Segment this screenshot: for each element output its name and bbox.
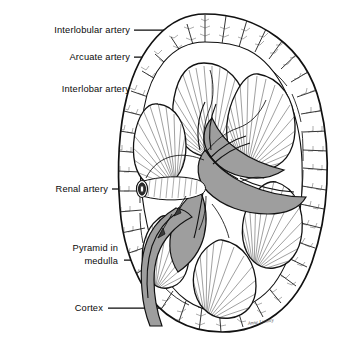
label-interlobular-artery: Interlobular artery [54,25,130,35]
label-renal-artery: Renal artery [56,184,109,194]
renal-artery-vessel [137,177,206,200]
label-pyramid-in-medulla-line2: medulla [84,256,118,266]
kidney-diagram-svg: Interlobular artery Arcuate artery Inter… [0,0,350,344]
label-pyramid-in-medulla-line1: Pyramid in [73,243,118,253]
label-arcuate-artery: Arcuate artery [70,52,131,62]
kidney-anatomy-figure: Interlobular artery Arcuate artery Inter… [0,0,350,344]
renal-artery-lumen-inner [140,186,143,192]
label-cortex: Cortex [75,303,103,313]
label-interlobar-artery: Interlobar artery [62,84,130,94]
kidney-body: Anne Lumley [115,14,328,332]
